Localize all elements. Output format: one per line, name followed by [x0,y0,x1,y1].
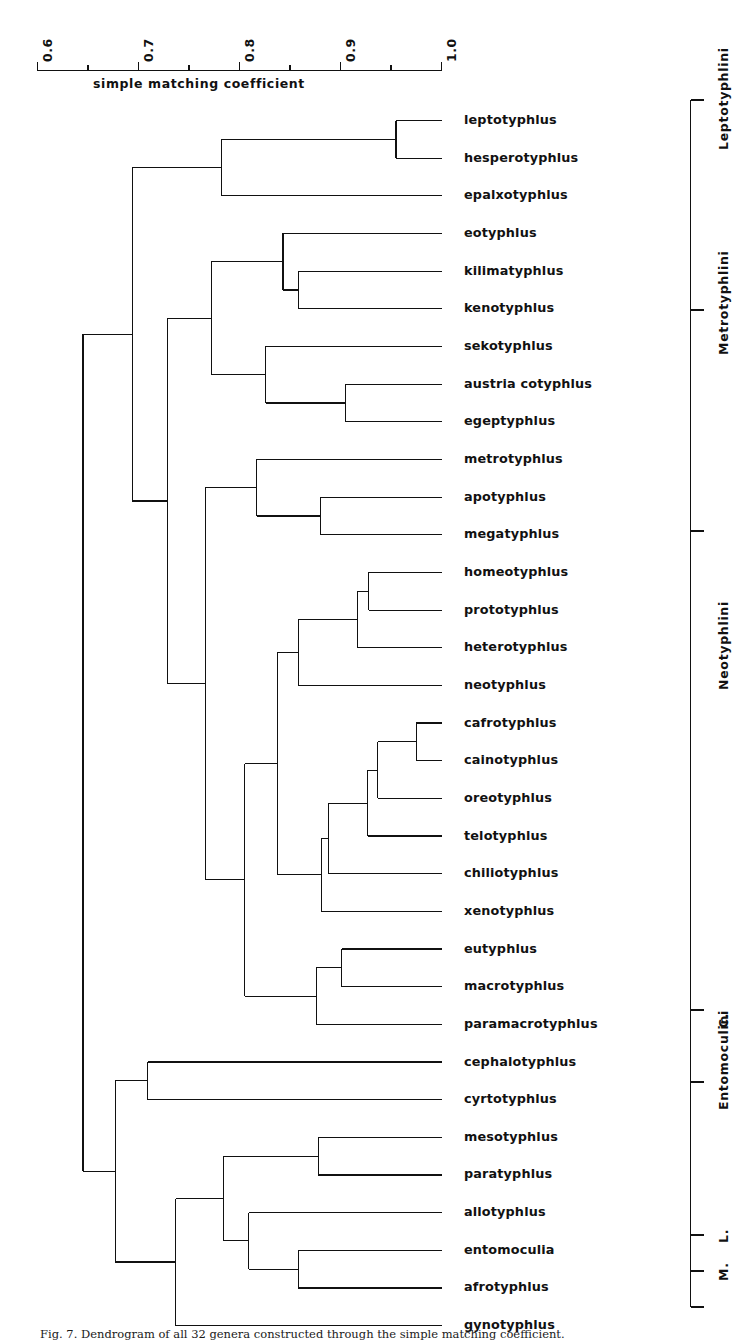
leaf-label: kilimatyphlus [464,265,563,278]
dendrogram-canvas [0,0,754,1343]
axis-tick-label-1-0: 1.0 [444,38,459,62]
leaf-label: paramacrotyphlus [464,1018,598,1031]
leaf-label: cephalotyphlus [464,1056,576,1069]
axis-tick-label-0-8: 0.8 [242,38,257,62]
leaf-label: oreotyphlus [464,792,552,805]
leaf-label: chiliotyphlus [464,867,558,880]
leaf-label: homeotyphlus [464,566,568,579]
figure-caption: Fig. 7. Dendrogram of all 32 genera cons… [40,1327,720,1343]
tribe-label: Leptotyphlini [716,47,731,150]
leaf-label: eotyphlus [464,227,537,240]
tribe-label: Metrotyphlini [716,251,731,355]
leaf-label: austria cotyphlus [464,378,592,391]
leaf-label: afrotyphlus [464,1281,549,1294]
leaf-label: metrotyphlus [464,453,563,466]
leaf-label: leptotyphlus [464,114,557,127]
leaf-label: telotyphlus [464,830,547,843]
dendrogram-figure: 0.6 0.7 0.8 0.9 1.0 simple matching coef… [0,0,754,1343]
tribe-label: Neotyphlini [716,601,731,690]
leaf-label: eutyphlus [464,943,537,956]
leaf-label: gynotyphlus [464,1319,555,1332]
axis-caption: simple matching coefficient [93,76,305,91]
leaf-label: macrotyphlus [464,980,564,993]
leaf-label: kenotyphlus [464,302,554,315]
leaf-label: sekotyphlus [464,340,553,353]
leaf-label: hesperotyphlus [464,152,578,165]
leaf-label: cyrtotyphlus [464,1093,557,1106]
leaf-label: apotyphlus [464,491,546,504]
tribe-label: M. [716,1262,731,1281]
axis-tick-label-0-9: 0.9 [343,38,358,62]
leaf-label: megatyphlus [464,528,559,541]
leaf-label: xenotyphlus [464,905,554,918]
leaf-label: paratyphlus [464,1168,552,1181]
leaf-label: egeptyphlus [464,415,555,428]
leaf-label: neotyphlus [464,679,546,692]
leaf-label: allotyphlus [464,1206,546,1219]
tribe-label: Entomoculini [716,1010,731,1110]
leaf-label: entomoculia [464,1244,555,1257]
axis-tick-label-0-6: 0.6 [40,38,55,62]
leaf-label: epalxotyphlus [464,189,568,202]
leaf-label: cafrotyphlus [464,717,557,730]
axis-tick-label-0-7: 0.7 [141,38,156,62]
leaf-label: mesotyphlus [464,1131,558,1144]
leaf-label: prototyphlus [464,604,559,617]
leaf-label: heterotyphlus [464,641,567,654]
tribe-label: L. [716,1229,731,1243]
leaf-label: cainotyphlus [464,754,558,767]
